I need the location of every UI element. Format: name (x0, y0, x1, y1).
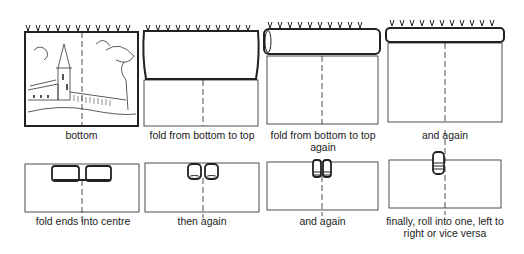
panel-7-and-again (267, 160, 378, 216)
step-5-caption: fold ends into centre (22, 215, 144, 227)
panel-1-picture (25, 25, 138, 126)
step-2-caption: fold from bottom to top (140, 129, 264, 141)
step-8-caption: finally, roll into one, left to right or… (382, 215, 508, 239)
step-7-caption: and again (267, 215, 378, 227)
step-4-caption: and again (386, 129, 504, 141)
step-3-caption: fold from bottom to top again (262, 129, 384, 153)
step-1-caption: bottom (25, 129, 138, 141)
panel-6-then-again (145, 163, 259, 218)
step-6-caption: then again (145, 215, 259, 227)
panel-2-fold (143, 25, 258, 126)
panel-3-fold-again (264, 22, 380, 124)
panel-8-roll (389, 130, 501, 215)
panel-4-and-again (386, 20, 504, 122)
